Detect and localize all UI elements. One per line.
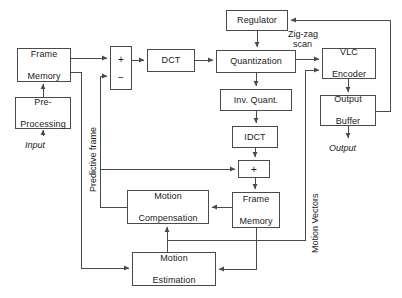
operator-plus-sign: + — [111, 55, 131, 65]
node-label-line2: Compensation — [136, 213, 199, 224]
node-motion-estimation[interactable]: Motion Estimation — [132, 252, 216, 286]
operator-adder[interactable]: + — [238, 160, 270, 178]
node-quantization[interactable]: Quantization — [216, 50, 296, 73]
label-input: Input — [25, 140, 45, 150]
operator-minus-sign: − — [111, 73, 131, 83]
wire-framememory-rec-to-motionestimation — [219, 228, 256, 269]
node-label-line1: Motion — [150, 253, 197, 264]
node-label-line2: Encoder — [330, 69, 368, 80]
node-label-line1: Regulator — [235, 15, 279, 26]
label-predictive-frame: Predictive frame — [88, 127, 98, 192]
wire-framememory-to-motionestimation — [71, 72, 129, 268]
label-zigzag-scan-line1: Zig-zag — [288, 29, 318, 39]
label-motion-vectors: Motion Vectors — [310, 193, 320, 253]
node-label-line1: VLC — [330, 47, 368, 58]
node-label-line2: Memory — [237, 216, 274, 227]
node-label-line2: Processing — [18, 119, 68, 130]
label-output: Output — [329, 143, 356, 153]
node-label-line1: Inv. Quant. — [232, 95, 280, 106]
node-label-line2: Memory — [25, 71, 62, 82]
node-output-buffer[interactable]: Output Buffer — [320, 95, 376, 126]
node-label-line1: Output — [332, 94, 364, 105]
operator-subtractor[interactable]: + − — [110, 46, 132, 90]
node-label-line1: Frame — [237, 194, 274, 205]
node-label-line1: DCT — [160, 55, 183, 66]
node-label-line1: Frame — [25, 49, 62, 60]
node-frame-memory-input[interactable]: Frame Memory — [17, 48, 71, 82]
node-label-line1: Motion — [136, 191, 199, 202]
operator-plus-sign: + — [239, 165, 269, 175]
node-inverse-quantization[interactable]: Inv. Quant. — [220, 89, 292, 111]
node-idct[interactable]: IDCT — [232, 126, 278, 148]
label-zigzag-scan-line2: scan — [293, 39, 312, 49]
node-vlc-encoder[interactable]: VLC Encoder — [322, 48, 376, 79]
node-dct[interactable]: DCT — [147, 49, 195, 72]
node-label-line2: Buffer — [332, 116, 364, 127]
node-frame-memory-reconstructed[interactable]: Frame Memory — [232, 192, 280, 228]
wire-motioncompensation-to-subtractor-minus — [100, 76, 127, 207]
block-diagram-canvas: Frame Memory Pre- Processing DCT Regulat… — [0, 0, 402, 298]
node-motion-compensation[interactable]: Motion Compensation — [127, 190, 209, 224]
node-label-line1: Quantization — [228, 56, 284, 67]
node-label-line2: Estimation — [150, 275, 197, 286]
node-label-line1: Pre- — [18, 97, 68, 108]
node-pre-processing[interactable]: Pre- Processing — [15, 97, 71, 129]
node-regulator[interactable]: Regulator — [226, 10, 288, 31]
node-label-line1: IDCT — [242, 132, 267, 143]
